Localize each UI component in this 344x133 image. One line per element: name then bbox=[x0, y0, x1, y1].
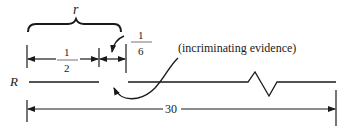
sixth-numerator: 1 bbox=[138, 29, 144, 41]
sixth-leader-arrow bbox=[112, 36, 124, 52]
r-label: r bbox=[73, 2, 79, 17]
row-label-R: R bbox=[9, 74, 18, 89]
total-label: 30 bbox=[165, 102, 177, 116]
evidence-curve-arrow bbox=[114, 58, 178, 99]
sixth-denominator: 6 bbox=[138, 45, 144, 57]
timeline-diagram: r 1 2 1 6 (incriminating evidence) R 30 bbox=[0, 0, 344, 133]
half-denominator: 2 bbox=[64, 62, 70, 74]
half-numerator: 1 bbox=[64, 46, 70, 58]
incriminating-evidence-label: (incriminating evidence) bbox=[178, 41, 296, 55]
r-brace bbox=[28, 19, 121, 32]
